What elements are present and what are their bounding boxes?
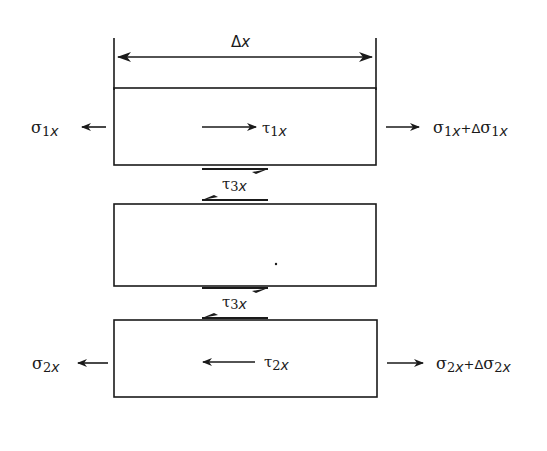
interface-shear-lower: τ3x <box>202 288 268 318</box>
sigma-2x-left-label: σ2x <box>32 354 60 375</box>
layer-2-box <box>114 320 377 397</box>
tau-2x-label: τ2x <box>264 353 290 373</box>
tau-3x-lower-label: τ3x <box>222 293 248 312</box>
sigma-1x-left-label: σ1x <box>31 118 59 139</box>
sigma-2x-right-label: σ2x+Δσ2x <box>436 354 512 375</box>
dimension-label: Δx <box>231 33 250 51</box>
layer-2: σ2x τ2x σ2x+Δσ2x <box>32 320 512 397</box>
layered-element-diagram: Δx σ1x τ1x σ1x+Δσ1x τ3x τ3x <box>0 0 547 451</box>
speck-dot <box>275 263 277 265</box>
sigma-1x-right-label: σ1x+Δσ1x <box>433 118 509 139</box>
dimension-delta-x: Δx <box>114 33 376 90</box>
layer-1: σ1x τ1x σ1x+Δσ1x <box>31 88 509 165</box>
tau-3x-upper-label: τ3x <box>222 175 248 194</box>
interface-shear-upper: τ3x <box>202 169 268 200</box>
layer-3 <box>114 204 376 286</box>
tau-1x-label: τ1x <box>262 119 288 139</box>
layer-3-box <box>114 204 376 286</box>
